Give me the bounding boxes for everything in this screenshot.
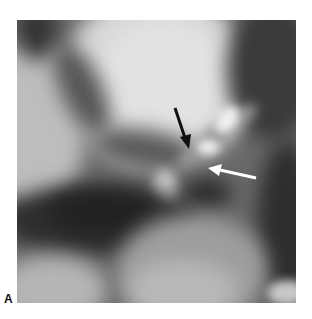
panel-label: A	[4, 293, 13, 305]
ct-scan-image	[17, 20, 296, 303]
